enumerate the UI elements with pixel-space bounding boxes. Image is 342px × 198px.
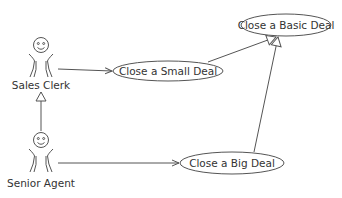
use-case-label: Close a Basic Deal [238,19,335,31]
use-case-close-big-deal[interactable]: Close a Big Deal [180,152,284,174]
use-case-close-basic-deal[interactable]: Close a Basic Deal [238,14,335,36]
actor-label: Sales Clerk [12,79,71,91]
stick-figure-icon [29,38,53,78]
use-case-diagram: Sales Clerk Senior Agent Close a Basic D… [0,0,342,198]
generalization-big-deal-basic-deal [254,37,278,152]
stick-figure-icon [29,133,53,173]
generalization-small-deal-basic-deal [208,37,276,62]
use-case-label: Close a Big Deal [189,157,275,169]
actor-label: Senior Agent [7,177,75,189]
use-case-close-small-deal[interactable]: Close a Small Deal [113,61,223,81]
actor-senior-agent[interactable]: Senior Agent [7,133,75,190]
actor-sales-clerk[interactable]: Sales Clerk [12,38,71,92]
use-case-label: Close a Small Deal [119,65,217,77]
association-sales-clerk-small-deal [58,69,112,71]
